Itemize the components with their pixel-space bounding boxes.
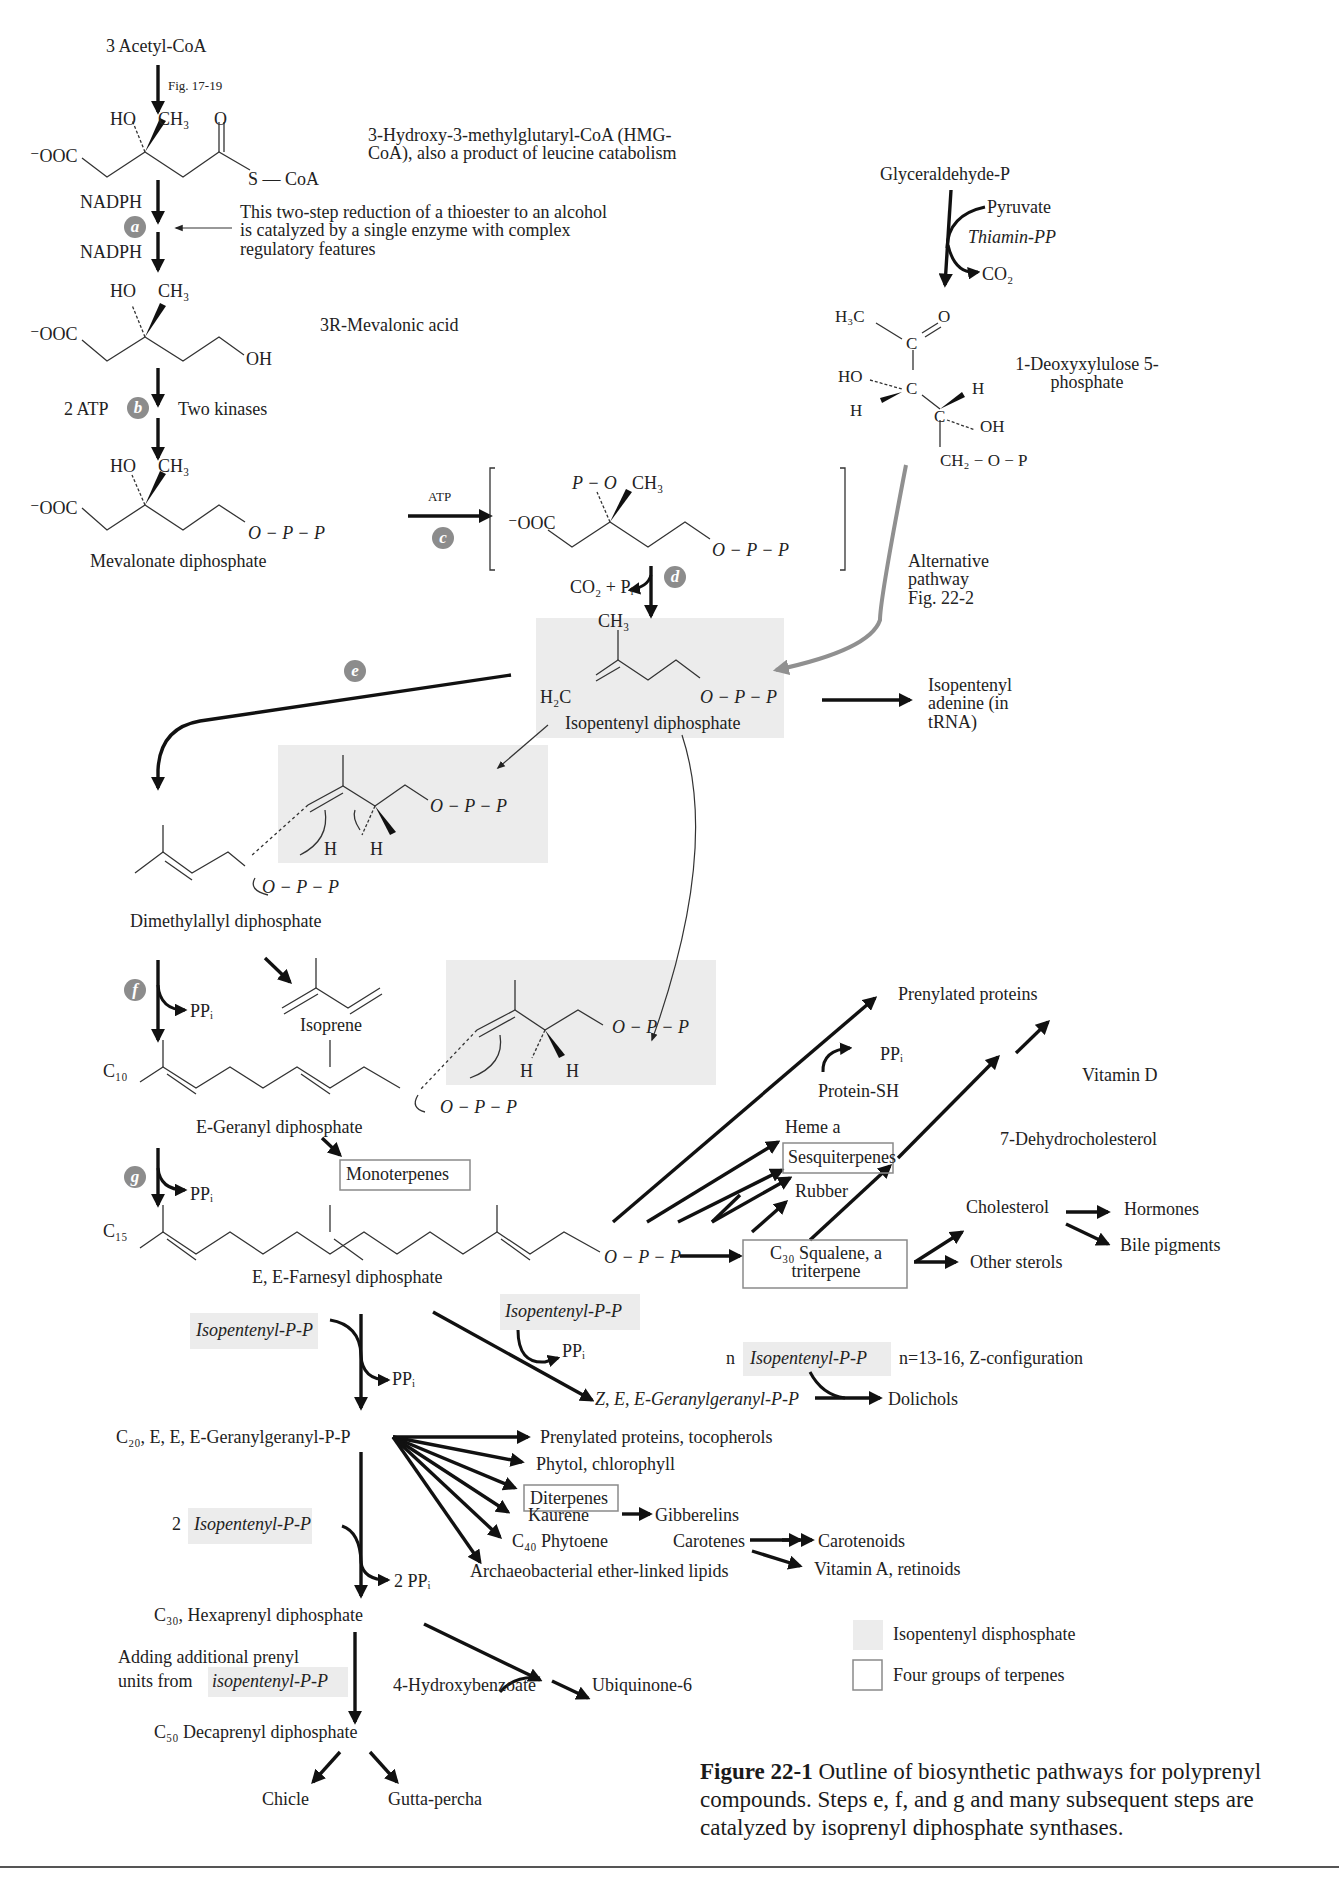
mevalonate-diphosphate-label: Mevalonate diphosphate — [90, 552, 266, 570]
step-b-badge: b — [127, 397, 149, 419]
dxp-c3: C — [934, 408, 945, 425]
legend-shade-swatch — [853, 1620, 883, 1650]
int-opp: O − P − P — [712, 541, 789, 559]
c15-label: C₁₅ — [103, 1222, 128, 1240]
ipp-shaded-2: Isopentenyl-P-P — [194, 1515, 311, 1533]
ipp-ch3: CH₃ — [598, 612, 629, 630]
chicle-label: Chicle — [262, 1790, 309, 1808]
int-ooc: ⁻OOC — [508, 514, 556, 532]
two-label: 2 — [172, 1515, 181, 1533]
dxp-h1: H — [850, 402, 862, 419]
hmg-ch3: CH₃ — [158, 110, 189, 128]
kaurene-label: Kaurene — [528, 1506, 589, 1524]
ipp1-opp: O − P − P — [430, 797, 507, 815]
mev-ooc: ⁻OOC — [30, 325, 78, 343]
isoprene-label: Isoprene — [300, 1016, 362, 1034]
co2-pi: CO₂ + Pᵢ — [570, 578, 633, 596]
gutta-percha-label: Gutta-percha — [388, 1790, 482, 1808]
dxp-ch2op: CH₂ − O − P — [940, 452, 1027, 469]
step-g-badge: g — [124, 1166, 146, 1188]
acetyl-coa-label: 3 Acetyl-CoA — [106, 37, 207, 55]
figure-caption: Figure 22-1 Outline of biosynthetic path… — [700, 1758, 1330, 1842]
fpp-opp: O − P − P — [604, 1248, 681, 1266]
ipp-h2c: H₂C — [540, 688, 571, 706]
other-sterols-label: Other sterols — [970, 1253, 1062, 1271]
step-d-badge: d — [664, 566, 686, 588]
ppi-protein: PPᵢ — [880, 1045, 903, 1063]
ubiquinone-label: Ubiquinone-6 — [592, 1676, 692, 1694]
adding-note-ipp: isopentenyl-P-P — [212, 1672, 328, 1690]
c10-label: C₁₀ — [103, 1062, 128, 1080]
ipp-shaded-a: Isopentenyl-P-P — [196, 1321, 313, 1339]
dxp-c1: C — [906, 335, 917, 352]
dxp-ho: HO — [838, 368, 863, 385]
bile-pigments-label: Bile pigments — [1120, 1236, 1221, 1254]
vitamin-a-label: Vitamin A, retinoids — [814, 1560, 960, 1578]
alternative-pathway-label: Alternative pathway Fig. 22-2 — [908, 552, 998, 607]
mdp-ho: HO — [110, 457, 136, 475]
mdp-ooc: ⁻OOC — [30, 499, 78, 517]
gibberelins-label: Gibberelins — [655, 1506, 739, 1524]
monoterpenes-box: Monoterpenes — [346, 1165, 449, 1183]
mev-ch3: CH₃ — [158, 282, 189, 300]
mev-oh: OH — [246, 350, 272, 368]
ipp-shaded-b: Isopentenyl-P-P — [505, 1302, 622, 1320]
prenylated-proteins-label: Prenylated proteins — [898, 985, 1037, 1003]
hmg-ho: HO — [110, 110, 136, 128]
ipp1-h2: H — [370, 840, 383, 858]
hexaprenyl-label: C₃₀, Hexaprenyl diphosphate — [154, 1606, 363, 1624]
legend-box-swatch — [853, 1660, 882, 1690]
hmg-coa-label: 3-Hydroxy-3-methylglutaryl-CoA (HMG-CoA)… — [368, 126, 678, 163]
adding-note-line2: units from — [118, 1672, 193, 1690]
rubber-label: Rubber — [795, 1182, 848, 1200]
int-po: P − O — [572, 474, 617, 492]
isopentenyl-adenine-label: Isopentenyl adenine (in tRNA) — [928, 676, 1048, 731]
hmg-s-coa: S — CoA — [248, 170, 319, 188]
ipp-shade-1 — [278, 745, 548, 863]
carotenoids-label: Carotenoids — [818, 1532, 905, 1550]
step-a-badge: a — [124, 216, 146, 238]
dxp-h3c: H₃C — [835, 308, 865, 325]
n-config-note: n=13-16, Z-configuration — [899, 1349, 1083, 1367]
mev-ho: HO — [110, 282, 136, 300]
figure-number: Figure 22-1 — [700, 1759, 813, 1784]
ppi-a: PPᵢ — [392, 1370, 415, 1388]
vitamin-d-label: Vitamin D — [1082, 1066, 1157, 1084]
dehydrocholesterol-label: 7-Dehydrocholesterol — [1000, 1130, 1157, 1148]
atp-c: ATP — [428, 490, 451, 503]
dxp-c2: C — [906, 380, 917, 397]
ipp2-h2: H — [566, 1062, 579, 1080]
ipp2-opp: O − P − P — [612, 1018, 689, 1036]
cholesterol-label: Cholesterol — [966, 1198, 1049, 1216]
dmapp-opp: O − P − P — [262, 878, 339, 896]
sesquiterpenes-box: Sesquiterpenes — [788, 1148, 896, 1166]
archaeobacterial-lipids-label: Archaeobacterial ether-linked lipids — [470, 1562, 729, 1580]
mdp-opp: O − P − P — [248, 524, 325, 542]
ipp-shaded-n: Isopentenyl-P-P — [750, 1349, 867, 1367]
hmg-o: O — [214, 110, 227, 128]
int-ch3: CH₃ — [632, 474, 663, 492]
fig-ref-17-19: Fig. 17-19 — [168, 79, 222, 92]
dxp-h2: H — [972, 380, 984, 397]
mdp-ch3: CH₃ — [158, 457, 189, 475]
heme-a-label: Heme a — [785, 1118, 840, 1136]
ipp-opp: O − P − P — [700, 688, 777, 706]
dmapp-label: Dimethylallyl diphosphate — [130, 912, 321, 930]
n-label: n — [726, 1349, 735, 1367]
legend-boxed-label: Four groups of terpenes — [893, 1666, 1064, 1684]
legend-shaded-label: Isopentenyl disphosphate — [893, 1625, 1075, 1643]
thiamin-pp-label: Thiamin-PP — [968, 228, 1056, 246]
ggpp-label: C₂₀, E, E, E-Geranylgeranyl-P-P — [116, 1428, 351, 1446]
step-e-badge: e — [344, 660, 366, 682]
ggpp-product-2: Phytol, chlorophyll — [536, 1455, 675, 1473]
phytoene-label: C₄₀ Phytoene — [512, 1532, 608, 1550]
carotenes-label: Carotenes — [673, 1532, 745, 1550]
fpp-label: E, E-Farnesyl diphosphate — [252, 1268, 442, 1286]
ppi-b: PPᵢ — [562, 1342, 585, 1360]
mevalonic-acid-label: 3R-Mevalonic acid — [320, 316, 458, 334]
step-a-note: This two-step reduction of a thioester t… — [240, 203, 620, 258]
step-c-badge: c — [432, 527, 454, 549]
hydroxybenzoate-label: 4-Hydroxybenzoate — [393, 1676, 536, 1694]
protein-sh-label: Protein-SH — [818, 1082, 899, 1100]
zee-ggpp-label: Z, E, E-Geranylgeranyl-P-P — [595, 1390, 799, 1408]
